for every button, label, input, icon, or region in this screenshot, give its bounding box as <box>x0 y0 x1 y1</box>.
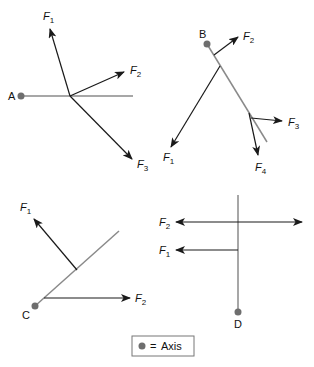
label-f1: F1 <box>20 201 32 216</box>
force-arrow-f3 <box>70 96 132 159</box>
diagram-c: C F1 F2 <box>20 201 147 321</box>
label-f3: F3 <box>137 158 149 173</box>
axis-line <box>35 231 119 306</box>
label-f4: F4 <box>255 161 267 176</box>
axis-dot <box>32 303 39 310</box>
axis-label-a: A <box>8 90 16 102</box>
axis-label-b: B <box>199 28 206 40</box>
label-f2: F2 <box>159 216 171 231</box>
diagram-a: A F1 F2 F3 <box>8 10 149 173</box>
label-f2: F2 <box>130 64 142 79</box>
axis-dot <box>235 309 242 316</box>
axis-dot <box>18 93 25 100</box>
axis-label-d: D <box>234 318 242 330</box>
label-f2: F2 <box>135 292 147 307</box>
legend: = Axis <box>132 336 194 356</box>
label-f2: F2 <box>243 30 255 45</box>
label-f1: F1 <box>43 10 55 25</box>
force-arrow-f1 <box>34 219 77 270</box>
legend-text: Axis <box>161 340 182 352</box>
force-arrow-f1 <box>171 66 220 147</box>
force-arrow-f2 <box>214 37 238 55</box>
diagram-b: B F2 F1 F3 F4 <box>163 28 300 176</box>
label-f1: F1 <box>163 151 175 166</box>
axis-label-c: C <box>22 309 30 321</box>
label-f3: F3 <box>288 116 300 131</box>
force-diagrams: A F1 F2 F3 B F2 F1 F3 F4 C F1 F2 D <box>0 0 314 367</box>
axis-line <box>207 44 267 142</box>
axis-dot-icon <box>139 343 146 350</box>
axis-dot <box>204 41 211 48</box>
force-arrow-f2 <box>70 72 124 96</box>
force-arrow-f3 <box>251 118 282 121</box>
label-f1: F1 <box>159 244 171 259</box>
legend-equals: = <box>150 340 156 352</box>
diagram-d: D F2 F1 <box>159 195 302 330</box>
force-arrow-f1 <box>50 29 70 96</box>
